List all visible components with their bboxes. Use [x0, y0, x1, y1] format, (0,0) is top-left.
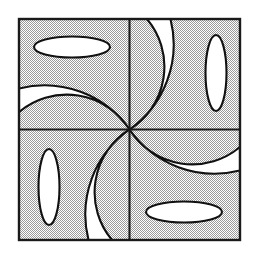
- figure-root: Four-quadrant pinwheel of crescents and …: [0, 0, 257, 257]
- pinwheel-figure: Four-quadrant pinwheel of crescents and …: [0, 0, 257, 257]
- ellipse-top-left: [34, 37, 110, 58]
- ellipse-bottom-right: [146, 202, 222, 223]
- ellipse-top-right: [206, 35, 227, 111]
- ellipse-bottom-left: [39, 149, 60, 225]
